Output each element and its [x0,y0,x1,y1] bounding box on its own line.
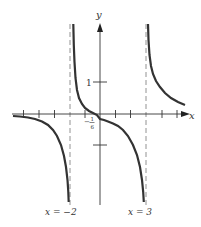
y-tick-label-1: 1 [86,78,92,88]
curve-middle-branch [73,24,144,202]
svg-text:1: 1 [91,116,95,122]
curve-left-branch [13,116,69,202]
curve-right-branch [148,24,185,105]
asymptote-right-label: x = 3 [128,207,152,217]
svg-text:6: 6 [91,124,95,130]
y-axis-label: y [95,9,102,20]
svg-text:−: − [84,118,90,126]
x-axis-label: x [189,110,195,121]
asymptote-left-label: x = −2 [45,207,77,217]
y-intercept-label: − 1 6 [84,116,95,130]
rational-function-graph: y x 1 − 1 6 x = −2 x = 3 [0,0,201,227]
y-axis-arrow-icon [97,23,103,32]
